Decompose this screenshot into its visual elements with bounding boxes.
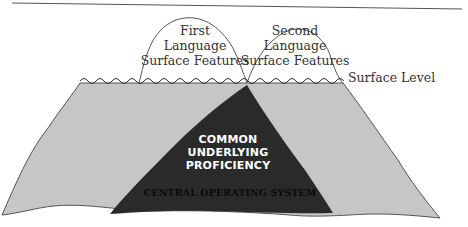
dual-iceberg-diagram: First Language Surface Features Second L… (0, 0, 468, 227)
peak1-line3: Surface Features (140, 53, 250, 68)
central-operating-system-label: CENTRAL OPERATING SYSTEM (130, 185, 330, 200)
peak2-line1: Second (240, 23, 350, 38)
peak1-line1: First (140, 23, 250, 38)
common-underlying-proficiency-label: COMMON UNDERLYING PROFICIENCY (165, 133, 291, 172)
core-line3: PROFICIENCY (165, 159, 291, 172)
core-line1: COMMON (165, 133, 291, 146)
peak2-line3: Surface Features (240, 53, 350, 68)
header-rule (12, 3, 462, 9)
peak2-line2: Language (240, 38, 350, 53)
core-line2: UNDERLYING (165, 146, 291, 159)
peak1-line2: Language (140, 38, 250, 53)
first-language-surface-features-label: First Language Surface Features (140, 23, 250, 68)
second-language-surface-features-label: Second Language Surface Features (240, 23, 350, 68)
surface-level-label: Surface Level (348, 70, 435, 85)
